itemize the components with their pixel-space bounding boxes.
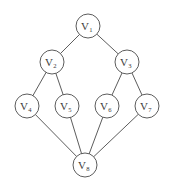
node-label-base-v8: V [78,159,86,171]
graph-diagram: V1V2V3V4V5V6V7V8 [0,0,172,186]
graph-edge-v5-v8 [71,117,82,153]
node-label-subscript-v1: 1 [89,26,92,33]
node-label-base-v1: V [81,20,89,32]
graph-edge-v3-v6 [112,73,122,95]
node-label-subscript-v2: 2 [53,62,56,69]
graph-node-v6[interactable]: V6 [95,94,119,118]
graph-edge-v6-v8 [89,117,103,154]
node-label-base-v2: V [45,56,53,68]
node-label-base-v3: V [120,56,128,68]
graph-edge-v3-v7 [132,73,142,95]
graph-edge-v2-v4 [33,72,46,95]
graph-edge-v2-v5 [56,73,63,94]
graph-node-v7[interactable]: V7 [135,94,159,118]
graph-edge-v7-v8 [94,114,139,156]
node-layer: V1V2V3V4V5V6V7V8 [15,14,159,177]
graph-node-v4[interactable]: V4 [15,94,39,118]
node-label-base-v5: V [60,100,68,112]
node-label-base-v7: V [140,100,148,112]
graph-edge-v1-v2 [60,34,79,53]
graph-node-v3[interactable]: V3 [115,50,139,74]
graph-edge-v4-v8 [35,115,76,157]
graph-node-v5[interactable]: V5 [55,94,79,118]
graph-edge-v1-v3 [97,34,118,54]
node-label-base-v4: V [20,100,28,112]
graph-node-v8[interactable]: V8 [73,153,97,177]
node-label-base-v6: V [100,100,108,112]
graph-node-v1[interactable]: V1 [76,14,100,38]
graph-node-v2[interactable]: V2 [40,50,64,74]
graph-svg-canvas: V1V2V3V4V5V6V7V8 [0,0,172,186]
